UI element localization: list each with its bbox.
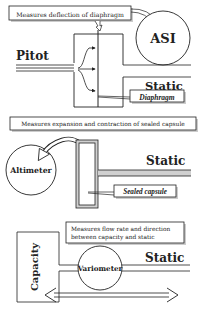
asi-panel: Measures deflection of diaphragm ASI Pit… <box>9 6 191 107</box>
asi-label: ASI <box>149 31 176 46</box>
flow-arrow-up-icon <box>78 48 95 68</box>
variometer-caption-line2: between capacity and static <box>71 234 155 241</box>
capacity-label: Capacity <box>29 242 40 291</box>
bidirectional-flow-arrow-icon <box>45 288 178 302</box>
altimeter-panel: Measures expansion and contraction of se… <box>6 117 198 208</box>
sealed-capsule-label: Sealed capsule <box>123 188 168 196</box>
asi-caption: Measures deflection of diaphragm <box>16 11 124 19</box>
deflection-pointer-icon <box>95 21 102 31</box>
variometer-caption-line1: Measures flow rate and direction <box>71 226 170 232</box>
diaphragm-label: Diaphragm <box>138 93 175 102</box>
variometer-label: Variometer <box>77 264 123 273</box>
altimeter-caption: Measures expansion and contraction of se… <box>21 121 185 128</box>
flow-arrow-down-icon <box>78 70 95 91</box>
variometer-static-label: Static <box>145 251 184 265</box>
altimeter-static-label: Static <box>146 154 185 168</box>
pitot-label: Pitot <box>16 49 49 63</box>
sealed-capsule <box>79 143 95 205</box>
pitot-static-instruments-diagram: Measures deflection of diaphragm ASI Pit… <box>0 0 201 315</box>
asi-caption-box: Measures deflection of diaphragm <box>9 6 133 22</box>
variometer-panel: Measures flow rate and direction between… <box>17 222 190 302</box>
altimeter-label: Altimeter <box>9 166 52 175</box>
